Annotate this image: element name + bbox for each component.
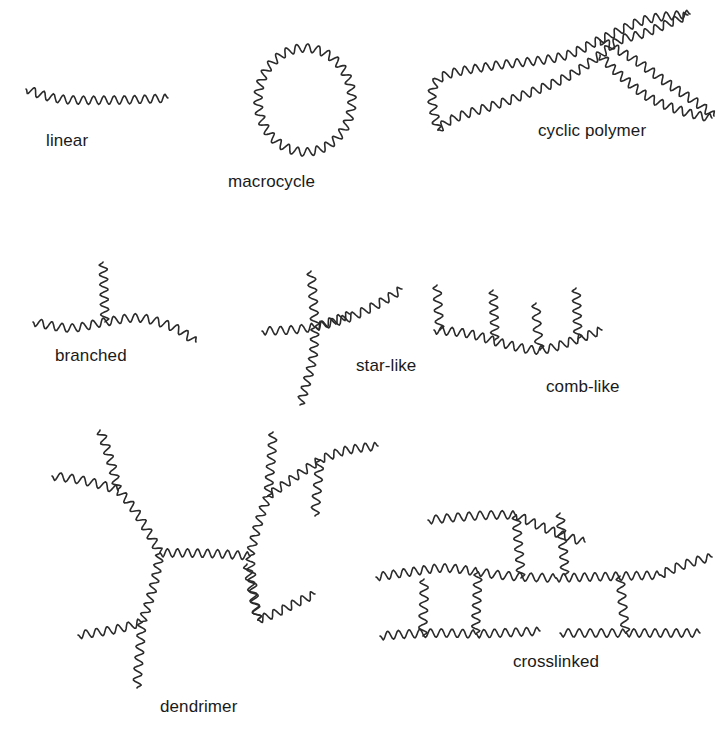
polymer-chain: [141, 553, 163, 622]
polymer-chain: [248, 496, 269, 556]
polymer-chain: [572, 288, 582, 339]
polymer-chain: [52, 473, 118, 491]
structure-comb-like: [433, 285, 602, 354]
polymer-chain: [133, 622, 145, 688]
polymer-chain: [298, 327, 319, 405]
polymer-chain: [434, 327, 602, 355]
polymer-chain: [476, 627, 540, 638]
structure-label-star: star-like: [356, 356, 416, 376]
polymer-ring: [254, 44, 356, 156]
polymer-chain: [560, 629, 626, 637]
structure-crosslinked: [376, 511, 712, 640]
polymer-chain: [160, 549, 250, 560]
structure-label-branched: branched: [55, 346, 127, 366]
polymer-chain: [489, 290, 499, 340]
structure-label-cyclic: cyclic polymer: [538, 121, 646, 141]
polymer-chain: [660, 554, 712, 577]
polymer-chain: [512, 515, 524, 578]
polymer-chain: [626, 629, 700, 637]
polymer-chain: [433, 285, 444, 330]
polymer-chain: [99, 262, 109, 322]
polymer-chain: [311, 460, 323, 516]
structure-label-macrocycle: macrocycle: [228, 172, 315, 192]
structure-linear: [26, 88, 168, 105]
structure-label-dendrimer: dendrimer: [160, 697, 237, 717]
structure-label-linear: linear: [46, 131, 88, 151]
structure-macrocycle: [254, 44, 356, 156]
structure-dendrimer: [52, 430, 378, 688]
polymer-chain: [438, 12, 688, 130]
polymer-chain: [33, 314, 196, 342]
polymer-chain: [262, 323, 315, 335]
polymer-chain: [556, 571, 660, 582]
polymer-chain: [117, 490, 162, 553]
structure-label-comb: comb-like: [546, 377, 620, 397]
polymer-chain: [258, 592, 315, 622]
polymer-chain: [78, 619, 142, 638]
polymer-chain: [428, 511, 516, 524]
structure-cyclic-polymer: [428, 10, 714, 130]
polymer-chain: [532, 303, 544, 350]
polymer-chain: [380, 629, 476, 640]
polymer-chain: [556, 513, 568, 575]
polymer-architectures-figure: linearmacrocyclecyclic polymerbranchedst…: [0, 0, 723, 739]
polymer-chain: [244, 564, 262, 620]
polymer-chain: [26, 88, 168, 105]
polymer-chain: [419, 579, 428, 636]
structure-label-crosslinked: crosslinked: [513, 652, 599, 672]
structure-star-like: [262, 271, 402, 405]
polymer-chain: [320, 443, 378, 463]
polymer-chain: [616, 576, 629, 633]
polymer-chain: [268, 458, 320, 497]
polymer-chain: [307, 271, 319, 327]
polymer-chain: [376, 564, 478, 581]
polymer-chain: [472, 572, 482, 634]
polymer-chain: [265, 432, 277, 496]
structure-branched: [33, 262, 196, 342]
polymer-chain: [516, 515, 585, 544]
polymer-chain: [599, 55, 712, 121]
polymer-chain: [97, 430, 121, 490]
